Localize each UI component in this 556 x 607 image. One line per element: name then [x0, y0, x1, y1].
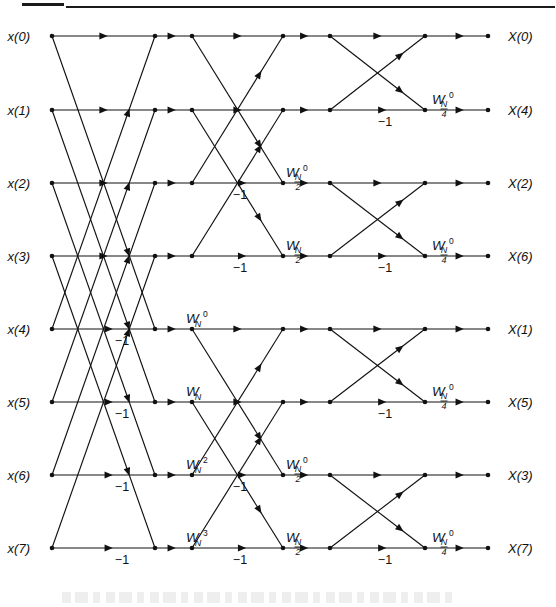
flow-arrowhead — [300, 253, 308, 260]
flow-arrowhead — [300, 326, 308, 333]
minus-one-label: −1 — [233, 553, 247, 567]
flow-arrowhead — [238, 180, 246, 187]
input-label-x4: x(4) — [7, 322, 30, 337]
twiddle-sup: 2 — [203, 455, 208, 465]
fft-signal-flow-graph: x(0)x(1)x(2)x(3)x(4)x(5)x(6)x(7)X(0)X(4)… — [0, 0, 556, 607]
node-stage2-out-row5 — [281, 400, 286, 405]
twiddle-sub-denominator: 2 — [294, 182, 300, 192]
flow-arrowhead — [395, 232, 404, 240]
input-label-x0: x(0) — [7, 29, 30, 44]
output-label-X1: X(1) — [507, 322, 533, 337]
flow-arrowhead — [168, 399, 176, 406]
output-label-X2: X(2) — [507, 176, 533, 191]
node-stage2-in-row3 — [190, 254, 195, 259]
flow-arrowhead — [238, 545, 246, 552]
node-stage3-out-row6 — [423, 473, 428, 478]
flow-arrowhead — [99, 253, 107, 260]
node-stage2-in-row6 — [190, 473, 195, 478]
flow-arrowhead — [254, 363, 261, 372]
node-stage2-in-row4 — [190, 327, 195, 332]
twiddle-sup: 0 — [449, 90, 454, 100]
flow-arrowhead — [168, 253, 176, 260]
twiddle-sup: 3 — [203, 528, 208, 538]
node-output-row0 — [486, 34, 491, 39]
node-stage2-in-row0 — [190, 34, 195, 39]
flow-arrowhead — [168, 326, 176, 333]
twiddle-label-stage2: WN20 — [286, 455, 308, 484]
node-stage2-out-row3 — [281, 254, 286, 259]
twiddle-sup: 0 — [303, 455, 308, 465]
twiddle-sup: 0 — [449, 236, 454, 246]
flow-arrowhead — [456, 180, 464, 187]
node-stage3-in-row5 — [328, 400, 333, 405]
input-label-x5: x(5) — [7, 395, 30, 410]
flow-arrowhead — [456, 253, 464, 260]
node-stage3-out-row7 — [423, 546, 428, 551]
twiddle-sub-denominator: 4 — [441, 401, 446, 411]
twiddle-sup: 0 — [303, 163, 308, 173]
twiddle-sub-denominator: 4 — [441, 109, 446, 119]
node-output-row3 — [486, 254, 491, 259]
flow-arrowhead — [105, 472, 113, 479]
node-stage1-in-row2 — [50, 181, 55, 186]
node-output-row2 — [486, 181, 491, 186]
node-output-row4 — [486, 327, 491, 332]
twiddle-sup: 0 — [203, 309, 208, 319]
node-stage3-out-row0 — [423, 34, 428, 39]
minus-one-label: −1 — [378, 407, 392, 421]
input-label-x7: x(7) — [7, 541, 30, 556]
twiddle-label-stage2: WN20 — [286, 163, 308, 192]
twiddle-sub: N — [195, 465, 202, 475]
node-stage2-in-row1 — [190, 108, 195, 113]
node-stage2-out-row2 — [281, 181, 286, 186]
minus-one-label: −1 — [378, 261, 392, 275]
twiddle-label-stage3: WN40 — [432, 528, 454, 557]
flow-arrowhead — [99, 33, 107, 40]
node-stage1-in-row4 — [50, 327, 55, 332]
node-stage2-out-row4 — [281, 327, 286, 332]
flow-arrowhead — [456, 326, 464, 333]
output-label-X7: X(7) — [507, 541, 533, 556]
flow-arrowhead — [395, 491, 404, 499]
twiddle-sub-numerator: N — [441, 391, 448, 401]
flow-arrowhead — [456, 472, 464, 479]
node-stage1-out-row4 — [153, 327, 158, 332]
flow-arrowhead — [300, 180, 308, 187]
node-stage1-out-row6 — [153, 473, 158, 478]
flow-arrowhead — [300, 545, 308, 552]
node-stage1-out-row2 — [153, 181, 158, 186]
flow-arrowhead — [254, 213, 261, 222]
node-stage1-out-row7 — [153, 546, 158, 551]
flow-arrowhead — [395, 378, 404, 386]
node-stage3-in-row1 — [328, 108, 333, 113]
node-stage3-out-row5 — [423, 400, 428, 405]
flow-arrowhead — [395, 524, 404, 532]
node-output-row1 — [486, 108, 491, 113]
flow-arrowhead — [168, 33, 176, 40]
node-stage2-out-row7 — [281, 546, 286, 551]
twiddle-sub-denominator: 4 — [441, 547, 446, 557]
minus-one-label: −1 — [115, 407, 129, 421]
twiddle-label-stage1: WN3 — [186, 528, 208, 548]
twiddle-sup: 0 — [449, 528, 454, 538]
flow-arrowhead — [238, 253, 246, 260]
output-label-X0: X(0) — [507, 29, 533, 44]
caption-cropped — [62, 592, 458, 603]
fft-flow-figure: x(0)x(1)x(2)x(3)x(4)x(5)x(6)x(7)X(0)X(4)… — [0, 0, 556, 607]
flow-arrowhead — [373, 180, 381, 187]
node-stage1-in-row3 — [50, 254, 55, 259]
flow-arrowhead — [456, 399, 464, 406]
minus-one-label: −1 — [233, 261, 247, 275]
twiddle-label-stage2: WN2 — [286, 530, 302, 557]
flow-arrowhead — [105, 326, 113, 333]
twiddle-label-stage1: WN2 — [186, 455, 208, 475]
node-stage3-in-row2 — [328, 181, 333, 186]
output-label-X6: X(6) — [507, 249, 533, 264]
node-stage3-out-row2 — [423, 181, 428, 186]
flow-arrowhead — [378, 107, 386, 114]
flow-arrowhead — [233, 33, 241, 40]
twiddle-sub: N — [195, 538, 202, 548]
flow-arrowhead — [168, 180, 176, 187]
flow-arrowhead — [395, 53, 404, 61]
flow-arrowhead — [105, 545, 113, 552]
